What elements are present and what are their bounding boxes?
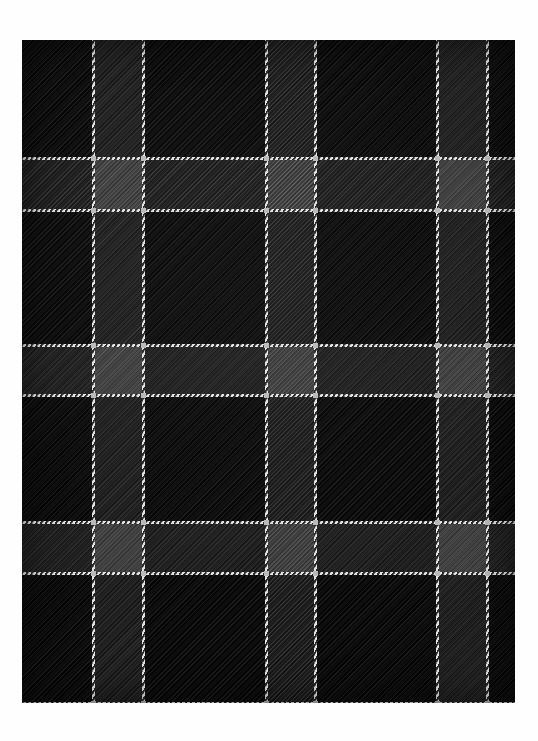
twill-ground-texture	[22, 40, 515, 703]
tartan-swatch	[22, 40, 515, 703]
screenshot-canvas	[0, 0, 538, 741]
